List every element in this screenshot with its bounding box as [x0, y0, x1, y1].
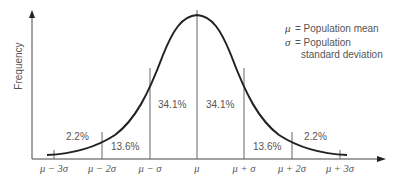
tick-mu-minus-2sigma: μ − 2σ [87, 163, 117, 174]
y-axis [29, 10, 35, 159]
legend-mu-text: = Population mean [295, 23, 379, 34]
tick-mu-minus-sigma: μ − σ [138, 163, 163, 174]
percent-left-mid: 13.6% [111, 141, 139, 152]
tick-mu-plus-3sigma: μ + 3σ [325, 163, 355, 174]
tick-mu: μ [193, 163, 199, 174]
tick-mu-minus-3sigma: μ − 3σ [39, 163, 69, 174]
percent-left-tail: 2.2% [66, 131, 89, 142]
percent-right-mid: 13.6% [253, 141, 281, 152]
x-axis-arrow-icon [377, 156, 386, 162]
y-axis-label: Frequency [13, 42, 24, 89]
normal-distribution-diagram: 2.2% 13.6% 34.1% 34.1% 13.6% 2.2% μ − 3σ… [0, 0, 398, 182]
legend-sigma-text-2: standard deviation [301, 49, 383, 60]
y-axis-arrow-icon [29, 10, 35, 18]
legend-mu-symbol: μ [284, 22, 291, 34]
percent-left-center: 34.1% [158, 99, 186, 110]
tick-mu-plus-2sigma: μ + 2σ [277, 163, 307, 174]
x-axis [32, 156, 386, 162]
legend-sigma-symbol: σ [285, 36, 291, 48]
percent-right-center: 34.1% [206, 99, 234, 110]
percent-right-tail: 2.2% [304, 131, 327, 142]
tick-mu-plus-sigma: μ + σ [232, 163, 257, 174]
legend-sigma-text-1: = Population [295, 37, 351, 48]
legend: μ = Population mean σ = Population stand… [284, 22, 383, 60]
